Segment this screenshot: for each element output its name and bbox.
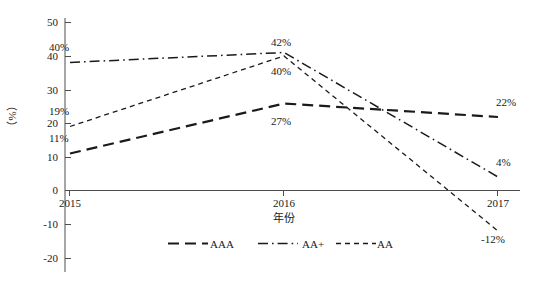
y-tick-label-0: 0 <box>53 184 59 196</box>
y-tick-label-50: 50 <box>47 16 59 28</box>
data-label-aaa-2015: 11% <box>49 132 69 144</box>
data-label-aa-2017: -12% <box>481 233 505 245</box>
y-tick-label-m20: -20 <box>43 252 58 264</box>
data-label-aa-2016: 40% <box>271 65 291 77</box>
data-label-aa-plus-2017: 4% <box>496 156 511 168</box>
y-tick-label-30: 30 <box>47 84 59 96</box>
x-tick-label-2016: 2016 <box>273 197 296 209</box>
y-axis-title: （%） <box>6 100 18 131</box>
legend-item-aa-plus[interactable]: AA+ <box>258 238 324 250</box>
chart-canvas: 50 40 30 20 10 0 -10 -20 2015 2016 2017 … <box>0 0 533 283</box>
data-label-aa-plus-2015: 40% <box>49 41 69 53</box>
data-label-aa-plus-2016: 42% <box>271 36 291 48</box>
y-tick-label-m10: -10 <box>43 218 58 230</box>
x-axis-title: 年份 <box>273 211 295 224</box>
x-tick-label-2017: 2017 <box>487 197 510 209</box>
y-tick-label-20: 20 <box>47 117 59 129</box>
y-tick-label-10: 10 <box>47 151 59 163</box>
legend-item-aa[interactable]: AA <box>336 238 393 250</box>
legend-item-aaa[interactable]: AAA <box>168 238 234 250</box>
data-label-aaa-2016: 27% <box>271 115 291 127</box>
data-label-aa-2015: 19% <box>49 105 69 117</box>
legend-label-aaa: AAA <box>210 238 234 250</box>
data-label-aaa-2017: 22% <box>496 96 516 108</box>
line-chart: 50 40 30 20 10 0 -10 -20 2015 2016 2017 … <box>0 0 533 283</box>
x-tick-label-2015: 2015 <box>59 197 82 209</box>
x-tick-marks <box>70 191 498 197</box>
legend-label-aa-plus: AA+ <box>302 238 324 250</box>
legend-label-aa: AA <box>377 238 393 250</box>
chart-legend: AAA AA+ AA <box>168 238 393 250</box>
series-line-aaa <box>70 104 498 154</box>
